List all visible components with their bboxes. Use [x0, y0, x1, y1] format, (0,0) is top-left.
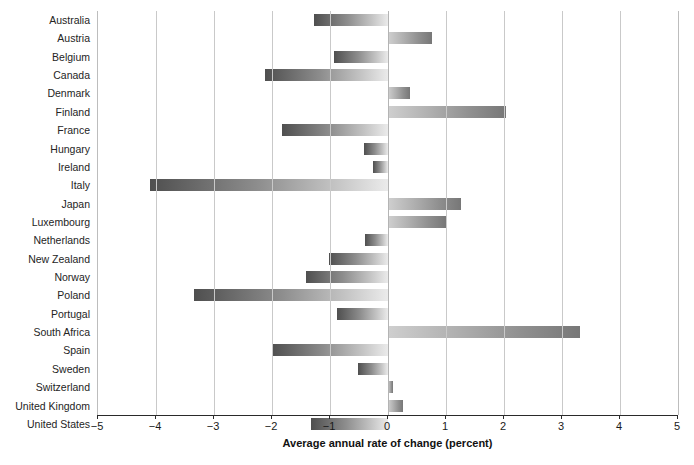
- x-tick-label: 5: [657, 420, 694, 432]
- zero-line: [388, 11, 389, 415]
- category-label: Denmark: [0, 84, 90, 102]
- category-label: Luxembourg: [0, 213, 90, 231]
- bar: [194, 289, 388, 301]
- x-tick: [213, 415, 214, 419]
- category-label: Canada: [0, 66, 90, 84]
- category-axis-labels: AustraliaAustriaBelgiumCanadaDenmarkFinl…: [0, 11, 90, 415]
- category-label: Portugal: [0, 305, 90, 323]
- bar: [358, 363, 388, 375]
- x-tick-label: 4: [599, 420, 639, 432]
- bar: [388, 216, 446, 228]
- x-tick-label: 1: [425, 420, 465, 432]
- gridline: [214, 11, 215, 415]
- category-label: Spain: [0, 341, 90, 359]
- x-tick: [445, 415, 446, 419]
- bar: [373, 161, 388, 173]
- category-label: United Kingdom: [0, 397, 90, 415]
- x-tick-label: −3: [193, 420, 233, 432]
- x-tick: [619, 415, 620, 419]
- category-label: Australia: [0, 11, 90, 29]
- bar: [388, 400, 403, 412]
- x-tick-label: −2: [251, 420, 291, 432]
- category-label: France: [0, 121, 90, 139]
- bar: [334, 51, 388, 63]
- x-tick-label: 2: [483, 420, 523, 432]
- gridline: [330, 11, 331, 415]
- bar: [388, 87, 410, 99]
- bar: [388, 326, 580, 338]
- category-label: Norway: [0, 268, 90, 286]
- x-tick-label: −4: [135, 420, 175, 432]
- category-label: Ireland: [0, 158, 90, 176]
- chart-figure: AustraliaAustriaBelgiumCanadaDenmarkFinl…: [0, 0, 694, 465]
- x-tick: [271, 415, 272, 419]
- category-label: Poland: [0, 286, 90, 304]
- bar: [329, 253, 388, 265]
- category-label: Hungary: [0, 140, 90, 158]
- gridline: [504, 11, 505, 415]
- x-axis-title: Average annual rate of change (percent): [97, 437, 678, 449]
- bar: [388, 198, 461, 210]
- bar: [388, 32, 432, 44]
- bar: [314, 14, 388, 26]
- bar: [282, 124, 388, 136]
- gridline: [156, 11, 157, 415]
- x-tick: [97, 415, 98, 419]
- x-tick: [329, 415, 330, 419]
- x-tick-label: 3: [541, 420, 581, 432]
- category-label: New Zealand: [0, 250, 90, 268]
- x-tick: [561, 415, 562, 419]
- bar: [365, 234, 388, 246]
- x-tick: [677, 415, 678, 419]
- bar: [265, 69, 388, 81]
- category-label: Sweden: [0, 360, 90, 378]
- plot-area: [97, 11, 679, 415]
- category-label: Netherlands: [0, 231, 90, 249]
- category-label: Italy: [0, 176, 90, 194]
- gridline: [272, 11, 273, 415]
- bar: [150, 179, 388, 191]
- x-tick: [155, 415, 156, 419]
- category-label: Belgium: [0, 48, 90, 66]
- bar: [364, 143, 388, 155]
- gridline: [562, 11, 563, 415]
- x-tick: [387, 415, 388, 419]
- category-label: Japan: [0, 195, 90, 213]
- bar: [337, 308, 388, 320]
- category-label: Switzerland: [0, 378, 90, 396]
- category-label: Austria: [0, 29, 90, 47]
- category-label: South Africa: [0, 323, 90, 341]
- x-tick-label: −1: [309, 420, 349, 432]
- category-label: Finland: [0, 103, 90, 121]
- gridline: [620, 11, 621, 415]
- x-tick-label: 0: [367, 420, 407, 432]
- bar: [306, 271, 388, 283]
- x-tick-label: −5: [77, 420, 117, 432]
- x-tick: [503, 415, 504, 419]
- gridline: [446, 11, 447, 415]
